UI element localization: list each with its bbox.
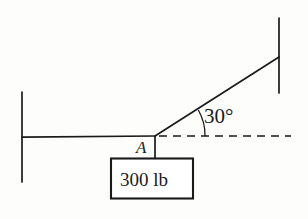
statics-diagram: 30° A 300 lb [0,0,308,219]
weight-label: 300 lb [120,169,168,190]
figure-canvas: 30° A 300 lb [0,0,308,219]
point-a-label: A [135,138,147,157]
angle-label: 30° [204,104,233,128]
